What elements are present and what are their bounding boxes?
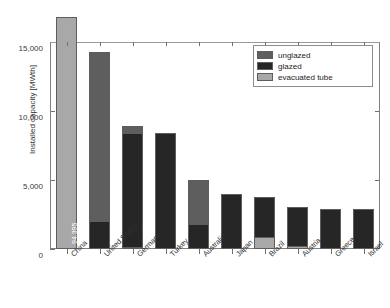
x-tick-mark-top xyxy=(100,42,101,46)
x-tick-mark-top xyxy=(166,42,167,46)
x-tick-mark-top xyxy=(67,42,68,46)
bar-australia[interactable] xyxy=(188,17,208,249)
x-tick-mark xyxy=(232,249,233,254)
x-tick-mark xyxy=(364,249,365,254)
x-tick-mark xyxy=(166,249,167,254)
bar-segment-glazed[interactable] xyxy=(320,209,340,249)
bar-value-annotation: 94,395 xyxy=(71,223,78,244)
x-tick-mark xyxy=(199,249,200,254)
bar-united-states[interactable] xyxy=(89,17,109,249)
bar-segment-unglazed[interactable] xyxy=(89,52,109,222)
legend-label-glazed: glazed xyxy=(278,62,302,71)
bar-turkey[interactable] xyxy=(155,17,175,249)
y-tick-label: 0 xyxy=(0,244,48,262)
x-tick-mark-top xyxy=(199,42,200,46)
legend-swatch-evacuated-tube xyxy=(257,73,273,81)
legend-item: unglazed xyxy=(257,50,368,60)
chart-legend: unglazed glazed evacuated tube xyxy=(253,45,373,87)
bar-germany[interactable] xyxy=(122,17,142,249)
bar-segment-glazed[interactable] xyxy=(155,133,175,249)
bar-japan[interactable] xyxy=(221,17,241,249)
bar-segment-glazed[interactable] xyxy=(353,209,373,249)
legend-swatch-unglazed xyxy=(257,51,273,59)
x-tick-mark-top xyxy=(133,42,134,46)
x-tick-mark xyxy=(67,249,68,254)
x-tick-mark xyxy=(100,249,101,254)
x-tick-mark xyxy=(133,249,134,254)
y-tick-label: 15,000 xyxy=(0,37,48,55)
bar-segment-glazed[interactable] xyxy=(89,221,109,249)
y-tick-label: 5,000 xyxy=(0,175,48,193)
legend-label-unglazed: unglazed xyxy=(278,51,310,60)
legend-label-evacuated-tube: evacuated tube xyxy=(278,73,333,82)
bar-segment-unglazed[interactable] xyxy=(122,126,142,133)
x-tick-mark xyxy=(265,249,266,254)
legend-swatch-glazed xyxy=(257,62,273,70)
y-tick-mark xyxy=(50,249,55,250)
y-tick-label: 10,000 xyxy=(0,106,48,124)
bar-segment-glazed[interactable] xyxy=(188,224,208,249)
legend-item: evacuated tube xyxy=(257,72,368,82)
bar-segment-glazed[interactable] xyxy=(254,197,274,236)
bar-segment-evacuated-tube[interactable]: 94,395 xyxy=(56,17,76,249)
bar-china[interactable]: 94,395 xyxy=(56,17,76,249)
x-tick-mark xyxy=(298,249,299,254)
bar-segment-unglazed[interactable] xyxy=(188,180,208,224)
x-tick-mark xyxy=(331,249,332,254)
chart-figure: Installed capacity [MWth] 05,00010,00015… xyxy=(0,0,390,308)
x-tick-mark-top xyxy=(232,42,233,46)
legend-item: glazed xyxy=(257,61,368,71)
bar-segment-glazed[interactable] xyxy=(287,207,307,246)
